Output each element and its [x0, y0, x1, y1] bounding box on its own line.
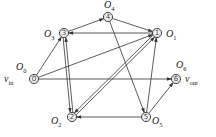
- io-label-v-in-subscript: in: [8, 79, 14, 86]
- directed-graph-diagram: 0123456 O0vinO1O2O3O4O5O6vout: [0, 0, 216, 137]
- edge-0-to-3: [37, 37, 62, 75]
- node-0: 0: [29, 74, 38, 83]
- nodes-layer: 0123456: [29, 12, 180, 121]
- node-label-O3: O3: [44, 28, 54, 41]
- node-label-O5-subscript: 5: [159, 121, 162, 128]
- node-label-O6: O6: [176, 59, 187, 72]
- node-number: 0: [32, 75, 36, 83]
- node-label-O2: O2: [51, 115, 61, 128]
- node-label-O0-main: O: [16, 61, 23, 72]
- node-4: 4: [103, 12, 112, 21]
- node-label-O3-main: O: [44, 28, 51, 39]
- edge-1-to-2: [74, 35, 152, 113]
- node-label-O6-subscript: 6: [183, 65, 187, 72]
- node-label-O6-main: O: [176, 59, 183, 70]
- node-label-O5: O5: [152, 115, 162, 128]
- node-label-O3-subscript: 3: [51, 34, 54, 41]
- node-label-O4-subscript: 4: [111, 5, 115, 12]
- node-label-O0-subscript: 0: [23, 67, 26, 74]
- node-label-O0: O0: [16, 61, 26, 74]
- edge-4-to-5: [110, 21, 145, 112]
- edge-3-to-4: [68, 19, 103, 32]
- io-label-v-out: vout: [185, 73, 198, 86]
- labels-layer: O0vinO1O2O3O4O5O6vout: [4, 0, 198, 128]
- node-number: 3: [62, 29, 66, 37]
- node-label-O1-subscript: 1: [173, 34, 176, 41]
- node-3: 3: [59, 28, 68, 37]
- edge-5-to-6: [149, 83, 173, 114]
- edge-5-to-1: [147, 38, 157, 113]
- io-label-v-in: vin: [4, 73, 14, 86]
- node-label-O1: O1: [166, 28, 176, 41]
- node-number: 6: [174, 75, 179, 83]
- node-number: 1: [155, 29, 159, 37]
- node-2: 2: [67, 112, 76, 121]
- node-label-O4-main: O: [104, 0, 111, 10]
- node-number: 4: [106, 13, 111, 21]
- edge-4-to-1: [112, 18, 152, 31]
- node-1: 1: [152, 28, 161, 37]
- node-label-O2-main: O: [51, 115, 58, 126]
- node-label-O1-main: O: [166, 28, 173, 39]
- node-number: 2: [70, 113, 74, 121]
- node-label-O5-main: O: [152, 115, 159, 126]
- node-6: 6: [171, 74, 180, 83]
- node-label-O2-subscript: 2: [58, 121, 61, 128]
- node-label-O4: O4: [104, 0, 115, 12]
- io-label-v-out-subscript: out: [189, 79, 198, 86]
- node-number: 5: [144, 113, 148, 121]
- node-5: 5: [141, 112, 150, 121]
